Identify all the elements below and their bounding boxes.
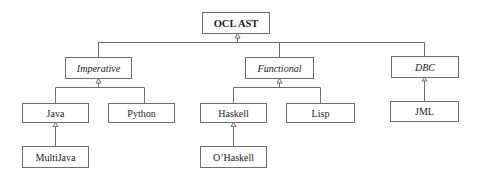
node-dbc: DBC xyxy=(391,56,459,78)
node-ohaskell: O’Haskell xyxy=(200,146,267,168)
arrowhead-icon xyxy=(422,78,427,82)
node-lisp: Lisp xyxy=(286,103,355,123)
inheritance-diagram: OCL AST Imperative Functional DBC Java P… xyxy=(0,0,480,178)
node-haskell: Haskell xyxy=(200,103,267,123)
arrowhead-icon xyxy=(96,79,101,84)
arrowhead-icon xyxy=(53,123,58,127)
arrowhead-icon xyxy=(277,79,282,84)
node-java: Java xyxy=(22,103,89,123)
node-multijava: MultiJava xyxy=(22,146,89,168)
node-jml: JML xyxy=(390,101,459,122)
node-ocl-ast: OCL AST xyxy=(202,12,270,34)
node-python: Python xyxy=(108,103,175,123)
arrowhead-icon xyxy=(231,123,236,127)
node-imperative: Imperative xyxy=(65,57,132,79)
node-functional: Functional xyxy=(245,57,314,79)
arrowhead-icon xyxy=(235,34,240,39)
